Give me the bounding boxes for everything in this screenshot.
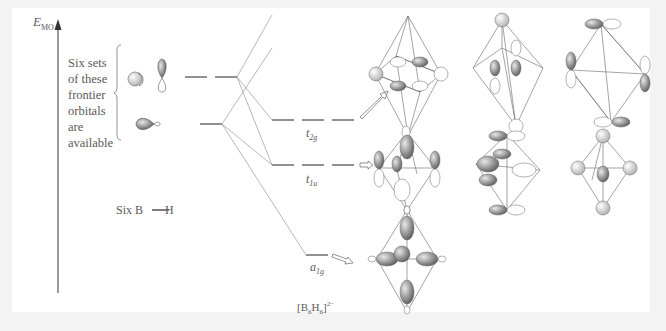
t1u-mo-1-icon (374, 126, 440, 214)
level-label-a1g: a1g (310, 260, 324, 276)
t1u-mo-2-icon (476, 131, 540, 215)
frontier-orbitals-note: Six sets of these frontier orbitals are … (68, 55, 118, 151)
a1g-mo-icon (368, 206, 446, 314)
mo-diagram-graphics (0, 0, 666, 331)
energy-axis (55, 19, 62, 293)
sp-hybrid-orbital-icon (136, 118, 160, 129)
t2g-mo-3-icon (566, 19, 650, 127)
fragment-label: Six BH (116, 203, 174, 218)
molecule-formula: [B6H6]2− (297, 300, 334, 316)
p-orbital-icon (158, 59, 166, 92)
level-label-t2g: t2g (306, 126, 317, 142)
t1u-mo-3-icon (571, 129, 637, 215)
fragment-levels (185, 77, 237, 124)
t2g-mo-1-icon (369, 16, 448, 136)
level-label-t1u: t1u (306, 172, 317, 188)
correlation-lines (222, 15, 306, 255)
energy-axis-label: EMO (33, 14, 54, 32)
s-orbital-icon (128, 72, 143, 86)
t2g-mo-2-icon (473, 13, 543, 133)
arrow-up-icon (55, 19, 62, 30)
